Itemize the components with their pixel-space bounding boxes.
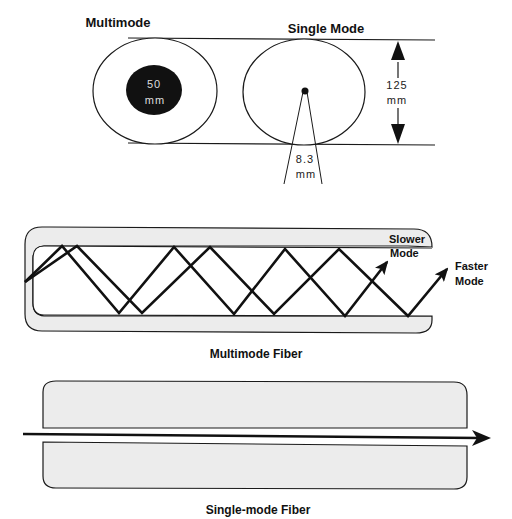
fiber-diagram: Multimode Single Mode 50 mm 8.3 mm 125 m… <box>0 0 512 519</box>
single-core-value: 8.3 <box>296 153 314 165</box>
arrow-up-icon <box>391 41 405 60</box>
faster-label-line2: Mode <box>455 275 484 287</box>
cladding-dimension-arrow <box>391 41 405 144</box>
single-core-unit: mm <box>296 168 316 180</box>
multimode-title: Multimode <box>86 15 151 30</box>
multimode-core-unit: mm <box>145 94 165 106</box>
single-mode-title: Single Mode <box>288 21 365 36</box>
single-mode-ray <box>23 434 480 438</box>
faster-label-line1: Faster <box>455 260 489 272</box>
multimode-fiber: Slower Mode Faster Mode Multimode Fiber <box>25 227 489 361</box>
cladding-value: 125 <box>386 79 407 91</box>
multimode-core <box>126 65 182 115</box>
multimode-fiber-caption: Multimode Fiber <box>210 347 303 361</box>
single-mode-upper-cladding <box>43 381 467 428</box>
bottom-boundary-line <box>128 143 435 145</box>
multimode-core-value: 50 <box>147 78 161 90</box>
cross-section: Multimode Single Mode 50 mm 8.3 mm 125 m… <box>86 15 436 184</box>
single-mode-fiber-caption: Single-mode Fiber <box>206 503 311 517</box>
slower-label-line1: Slower <box>389 233 426 245</box>
arrow-down-icon <box>391 124 405 144</box>
slower-label-line2: Mode <box>390 247 419 259</box>
top-boundary-line <box>128 38 435 40</box>
single-mode-lower-cladding <box>43 442 467 489</box>
cladding-unit: mm <box>387 94 407 106</box>
single-mode-fiber: Single-mode Fiber <box>23 381 491 517</box>
